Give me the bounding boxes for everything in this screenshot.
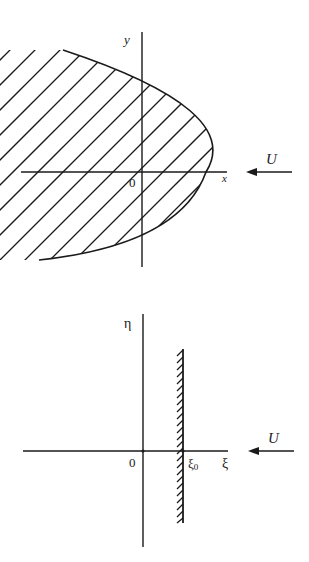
top-figure: y x 0 U	[0, 0, 309, 275]
x-axis-label: x	[221, 172, 227, 184]
flow-arrow-head-icon-bottom	[248, 447, 259, 455]
wall-axis-dot	[181, 449, 184, 452]
origin-label-bottom: 0	[129, 455, 136, 470]
parabola-hatching	[0, 0, 309, 275]
eta-axis-label: η	[124, 316, 131, 331]
flow-label-bottom: U	[268, 430, 280, 446]
xi0-label: ξ0	[188, 456, 199, 472]
bottom-figure: η ξ 0 ξ0 U	[23, 314, 294, 547]
parabola-boundary	[39, 50, 213, 260]
flow-arrow-head-icon	[246, 168, 257, 176]
y-axis-label: y	[122, 32, 130, 47]
flow-label: U	[266, 151, 278, 167]
xi0-subscript: 0	[194, 462, 199, 472]
origin-dot	[141, 449, 144, 452]
origin-label: 0	[129, 175, 136, 190]
diagram-canvas: y x 0 U	[0, 0, 309, 562]
xi-axis-label: ξ	[222, 456, 228, 471]
